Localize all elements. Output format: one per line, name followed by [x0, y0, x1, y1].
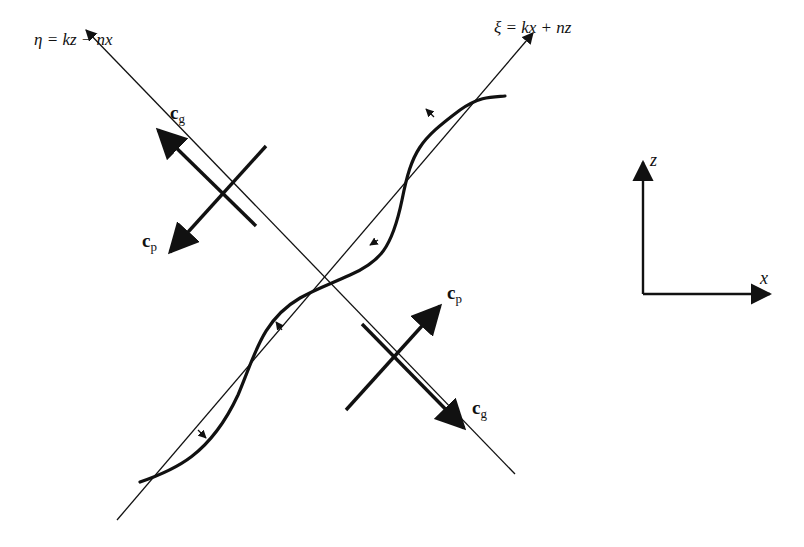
x-axis-label: x	[760, 268, 768, 289]
z-axis-label: z	[650, 150, 657, 171]
group-velocity-label-upper: cg	[170, 102, 185, 127]
reference-axes	[643, 162, 770, 294]
group-velocity-label-lower: cg	[472, 397, 487, 422]
diagram-graphics	[0, 0, 804, 547]
phase-velocity-label-lower: cp	[447, 282, 462, 307]
phase-velocity-label-upper: cp	[142, 230, 157, 255]
wave-diagram: η = kz − nx ξ = kx + nz cg cp cp cg z x	[0, 0, 804, 547]
lower-right-velocity-cross	[346, 306, 464, 428]
upper-left-velocity-cross	[158, 130, 266, 252]
displacement-arrows	[198, 109, 434, 438]
eta-axis-label: η = kz − nx	[34, 30, 113, 50]
xi-axis-label: ξ = kx + nz	[494, 18, 571, 38]
